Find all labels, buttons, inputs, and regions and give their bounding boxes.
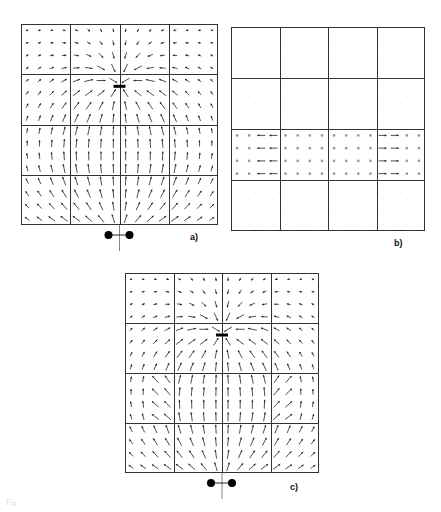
figure-caption: Fig bbox=[6, 498, 17, 507]
panel-label-a: a) bbox=[190, 232, 198, 242]
grid-lines bbox=[125, 273, 319, 473]
panel-label-b: b) bbox=[394, 238, 403, 248]
dipole-icon bbox=[207, 473, 236, 499]
vector-field-panel-c bbox=[125, 273, 319, 473]
vector-field-plot-a bbox=[21, 24, 218, 255]
sink-bar-icon bbox=[114, 85, 126, 88]
sink-bar-icon bbox=[216, 334, 228, 337]
vector-field-plot-b bbox=[231, 27, 425, 261]
panel-label-c: c) bbox=[290, 482, 298, 492]
grid-lines bbox=[21, 24, 218, 225]
vector-field-plot-c bbox=[125, 273, 319, 503]
vector-field-panel-a bbox=[21, 24, 218, 225]
grid-lines bbox=[231, 27, 425, 231]
vector-field-panel-b bbox=[231, 27, 425, 231]
dipole-icon bbox=[105, 225, 134, 251]
